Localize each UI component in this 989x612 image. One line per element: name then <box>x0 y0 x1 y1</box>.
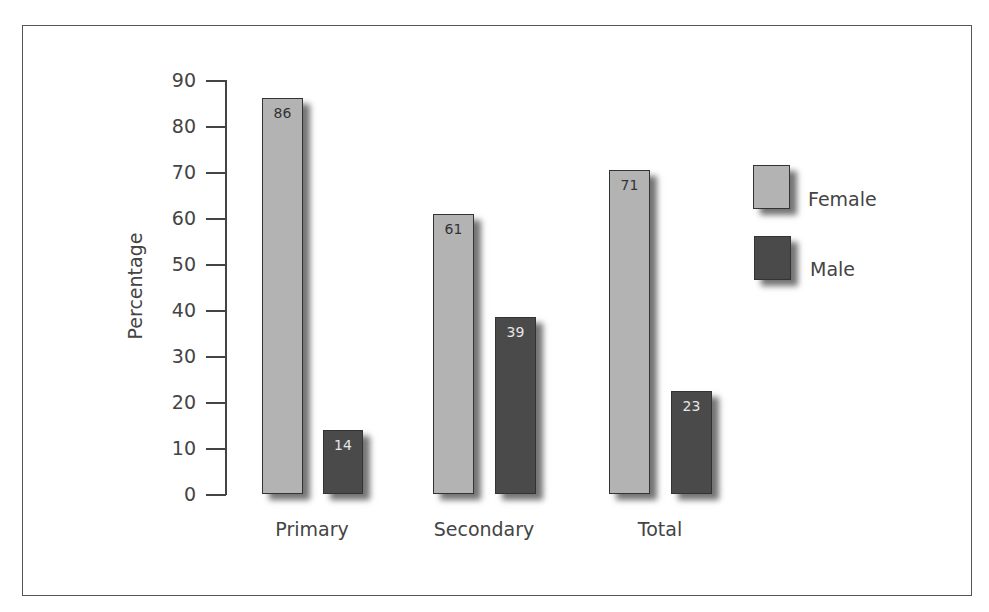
y-tick-label: 0 <box>146 484 196 504</box>
y-tick-label: 20 <box>146 392 196 412</box>
y-tick-40 <box>206 310 226 312</box>
y-tick-30 <box>206 356 226 358</box>
bar-secondary-female: 61 <box>433 214 474 494</box>
y-tick-label: 40 <box>146 300 196 320</box>
bar-value-label: 86 <box>263 105 302 121</box>
bar-value-label: 71 <box>610 177 649 193</box>
y-tick-0 <box>206 494 226 496</box>
y-tick-10 <box>206 448 226 450</box>
y-tick-90 <box>206 80 226 82</box>
y-tick-60 <box>206 218 226 220</box>
y-tick-70 <box>206 172 226 174</box>
bar-secondary-male: 39 <box>495 317 536 494</box>
y-tick-label: 60 <box>146 208 196 228</box>
y-tick-label: 90 <box>146 70 196 90</box>
bar-total-female: 71 <box>609 170 650 494</box>
legend-swatch-male <box>754 236 791 280</box>
bar-total-male: 23 <box>671 391 712 494</box>
bar-value-label: 61 <box>434 221 473 237</box>
legend-label-male: Male <box>810 258 855 280</box>
x-category-label: Total <box>580 518 740 540</box>
x-category-label: Secondary <box>404 518 564 540</box>
y-tick-label: 80 <box>146 116 196 136</box>
y-tick-50 <box>206 264 226 266</box>
y-tick-80 <box>206 126 226 128</box>
y-tick-label: 50 <box>146 254 196 274</box>
y-tick-20 <box>206 402 226 404</box>
bar-value-label: 14 <box>324 437 362 453</box>
y-tick-label: 70 <box>146 162 196 182</box>
y-axis-label: Percentage <box>124 231 146 341</box>
bar-primary-female: 86 <box>262 98 303 494</box>
bar-primary-male: 14 <box>323 430 363 494</box>
bar-value-label: 23 <box>672 398 711 414</box>
x-category-label: Primary <box>232 518 392 540</box>
y-tick-label: 30 <box>146 346 196 366</box>
y-axis-line <box>225 80 227 495</box>
y-tick-label: 10 <box>146 438 196 458</box>
legend-swatch-female <box>753 165 790 209</box>
bar-value-label: 39 <box>496 324 535 340</box>
legend-label-female: Female <box>808 188 877 210</box>
